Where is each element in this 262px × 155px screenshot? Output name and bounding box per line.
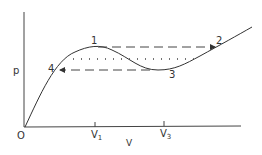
- pv-diagram: [0, 0, 262, 155]
- tick-label-v3: V3: [160, 129, 171, 141]
- origin-label: O: [17, 131, 25, 141]
- tick-label-v1: V1: [91, 130, 102, 142]
- y-axis-label: p: [13, 66, 19, 76]
- x-axis: [24, 126, 241, 127]
- x-axis-label: V: [126, 139, 132, 148]
- point-label-1: 1: [91, 36, 97, 46]
- point-label-3: 3: [169, 70, 175, 80]
- point-label-4: 4: [48, 64, 54, 74]
- point-label-2: 2: [216, 36, 222, 46]
